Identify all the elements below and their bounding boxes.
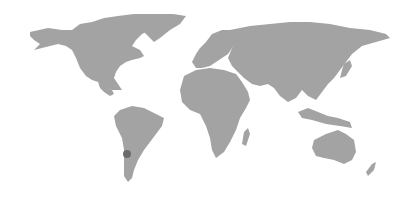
landmass-madagascar xyxy=(242,128,250,146)
world-map-svg xyxy=(0,0,416,200)
continent-africa xyxy=(180,68,250,158)
continent-asia xyxy=(228,22,390,102)
world-map xyxy=(0,0,416,200)
continent-south-america xyxy=(114,106,164,182)
highlight-marker-chile[interactable] xyxy=(123,150,131,158)
landmass-new-zealand xyxy=(366,162,376,176)
landmass-indonesia xyxy=(298,108,352,128)
continent-australia xyxy=(312,130,356,164)
